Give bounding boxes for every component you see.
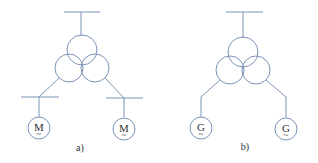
svg-text:~: ~: [199, 129, 204, 139]
diagram-label-a: a): [76, 142, 84, 154]
motor-left-icon: M ~: [28, 117, 50, 139]
right-feeder: [105, 78, 124, 98]
diagram-a: M ~ M ~ a): [21, 12, 143, 154]
diagram-b: G ~ G ~ b): [190, 12, 297, 153]
diagram-label-b: b): [241, 141, 249, 153]
left-feeder: [39, 78, 59, 97]
svg-text:~: ~: [37, 129, 42, 139]
svg-text:~: ~: [122, 130, 127, 140]
generator-right-icon: G ~: [275, 118, 297, 140]
generator-left-icon: G ~: [190, 117, 212, 139]
transformer-diagrams: M ~ M ~ a) G ~ G ~: [0, 0, 318, 163]
svg-text:~: ~: [284, 130, 289, 140]
left-feeder: [201, 80, 220, 117]
motor-right-icon: M ~: [113, 118, 135, 140]
right-feeder: [266, 80, 286, 117]
three-winding-transformer-icon: [55, 35, 109, 82]
three-winding-transformer-icon: [216, 37, 270, 84]
